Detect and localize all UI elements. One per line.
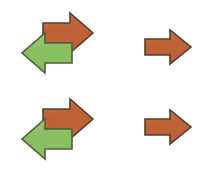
orange-right-arrow-top-right [144,29,192,65]
arrow-group-top-left [0,0,110,86]
arrow-group-bottom-left [0,86,110,171]
arrow-group-bottom-right [110,86,211,171]
arrow-group-top-right [110,0,211,86]
green-left-arrow-top-left [21,32,73,74]
green-left-arrow-bottom-left [21,118,73,160]
figure-canvas [0,0,211,171]
orange-right-arrow-bottom-right [144,109,192,145]
